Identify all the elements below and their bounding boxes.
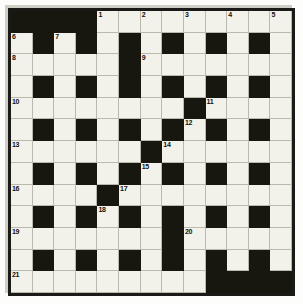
letter-cell[interactable]: 3 bbox=[184, 11, 206, 33]
letter-cell[interactable] bbox=[97, 250, 119, 272]
letter-cell[interactable] bbox=[270, 76, 292, 98]
letter-cell[interactable] bbox=[97, 54, 119, 76]
letter-cell[interactable] bbox=[33, 98, 55, 120]
letter-cell[interactable] bbox=[184, 163, 206, 185]
letter-cell[interactable] bbox=[249, 98, 271, 120]
letter-cell[interactable] bbox=[227, 163, 249, 185]
letter-cell[interactable] bbox=[54, 185, 76, 207]
letter-cell[interactable]: 5 bbox=[270, 11, 292, 33]
letter-cell[interactable]: 18 bbox=[97, 206, 119, 228]
letter-cell[interactable] bbox=[54, 76, 76, 98]
letter-cell[interactable]: 4 bbox=[227, 11, 249, 33]
letter-cell[interactable]: 9 bbox=[141, 54, 163, 76]
letter-cell[interactable]: 8 bbox=[11, 54, 33, 76]
letter-cell[interactable] bbox=[270, 206, 292, 228]
letter-cell[interactable] bbox=[270, 119, 292, 141]
letter-cell[interactable]: 11 bbox=[206, 98, 228, 120]
letter-cell[interactable] bbox=[227, 119, 249, 141]
letter-cell[interactable] bbox=[141, 98, 163, 120]
letter-cell[interactable] bbox=[54, 250, 76, 272]
letter-cell[interactable] bbox=[11, 119, 33, 141]
letter-cell[interactable] bbox=[227, 228, 249, 250]
letter-cell[interactable] bbox=[184, 250, 206, 272]
letter-cell[interactable] bbox=[206, 185, 228, 207]
letter-cell[interactable] bbox=[11, 76, 33, 98]
letter-cell[interactable] bbox=[227, 54, 249, 76]
letter-cell[interactable] bbox=[270, 33, 292, 55]
letter-cell[interactable]: 15 bbox=[141, 163, 163, 185]
letter-cell[interactable] bbox=[141, 228, 163, 250]
letter-cell[interactable] bbox=[162, 98, 184, 120]
letter-cell[interactable] bbox=[270, 228, 292, 250]
letter-cell[interactable] bbox=[270, 250, 292, 272]
letter-cell[interactable]: 14 bbox=[162, 141, 184, 163]
letter-cell[interactable] bbox=[11, 206, 33, 228]
letter-cell[interactable]: 7 bbox=[54, 33, 76, 55]
letter-cell[interactable] bbox=[97, 228, 119, 250]
letter-cell[interactable] bbox=[54, 163, 76, 185]
letter-cell[interactable] bbox=[227, 98, 249, 120]
letter-cell[interactable] bbox=[141, 76, 163, 98]
letter-cell[interactable] bbox=[97, 271, 119, 293]
letter-cell[interactable] bbox=[33, 141, 55, 163]
letter-cell[interactable] bbox=[270, 163, 292, 185]
letter-cell[interactable] bbox=[54, 141, 76, 163]
letter-cell[interactable] bbox=[97, 76, 119, 98]
letter-cell[interactable] bbox=[184, 76, 206, 98]
letter-cell[interactable] bbox=[270, 98, 292, 120]
letter-cell[interactable] bbox=[249, 141, 271, 163]
letter-cell[interactable] bbox=[227, 76, 249, 98]
letter-cell[interactable] bbox=[184, 185, 206, 207]
letter-cell[interactable]: 1 bbox=[97, 11, 119, 33]
letter-cell[interactable] bbox=[206, 11, 228, 33]
letter-cell[interactable] bbox=[227, 33, 249, 55]
letter-cell[interactable] bbox=[54, 271, 76, 293]
letter-cell[interactable] bbox=[227, 185, 249, 207]
letter-cell[interactable]: 13 bbox=[11, 141, 33, 163]
letter-cell[interactable] bbox=[249, 54, 271, 76]
letter-cell[interactable] bbox=[141, 271, 163, 293]
letter-cell[interactable] bbox=[97, 119, 119, 141]
letter-cell[interactable] bbox=[141, 250, 163, 272]
letter-cell[interactable] bbox=[97, 33, 119, 55]
letter-cell[interactable] bbox=[33, 54, 55, 76]
letter-cell[interactable] bbox=[11, 250, 33, 272]
letter-cell[interactable] bbox=[270, 54, 292, 76]
letter-cell[interactable] bbox=[249, 228, 271, 250]
letter-cell[interactable] bbox=[33, 271, 55, 293]
letter-cell[interactable] bbox=[119, 11, 141, 33]
letter-cell[interactable]: 10 bbox=[11, 98, 33, 120]
letter-cell[interactable]: 17 bbox=[119, 185, 141, 207]
letter-cell[interactable] bbox=[141, 33, 163, 55]
letter-cell[interactable] bbox=[227, 250, 249, 272]
letter-cell[interactable] bbox=[11, 163, 33, 185]
letter-cell[interactable] bbox=[141, 185, 163, 207]
letter-cell[interactable] bbox=[184, 54, 206, 76]
letter-cell[interactable] bbox=[119, 228, 141, 250]
letter-cell[interactable] bbox=[33, 228, 55, 250]
letter-cell[interactable]: 20 bbox=[184, 228, 206, 250]
letter-cell[interactable] bbox=[227, 141, 249, 163]
letter-cell[interactable] bbox=[162, 54, 184, 76]
letter-cell[interactable] bbox=[162, 11, 184, 33]
letter-cell[interactable] bbox=[54, 228, 76, 250]
letter-cell[interactable] bbox=[270, 185, 292, 207]
letter-cell[interactable] bbox=[206, 54, 228, 76]
crossword-grid[interactable]: 123456789101112131415161718192021 bbox=[11, 11, 292, 293]
letter-cell[interactable] bbox=[249, 11, 271, 33]
letter-cell[interactable] bbox=[76, 271, 98, 293]
letter-cell[interactable] bbox=[97, 163, 119, 185]
letter-cell[interactable] bbox=[184, 271, 206, 293]
letter-cell[interactable] bbox=[54, 54, 76, 76]
letter-cell[interactable]: 16 bbox=[11, 185, 33, 207]
letter-cell[interactable] bbox=[184, 206, 206, 228]
letter-cell[interactable] bbox=[119, 271, 141, 293]
letter-cell[interactable] bbox=[54, 98, 76, 120]
letter-cell[interactable] bbox=[97, 98, 119, 120]
letter-cell[interactable] bbox=[54, 206, 76, 228]
letter-cell[interactable] bbox=[76, 98, 98, 120]
letter-cell[interactable]: 19 bbox=[11, 228, 33, 250]
letter-cell[interactable] bbox=[249, 185, 271, 207]
letter-cell[interactable] bbox=[141, 206, 163, 228]
letter-cell[interactable]: 21 bbox=[11, 271, 33, 293]
